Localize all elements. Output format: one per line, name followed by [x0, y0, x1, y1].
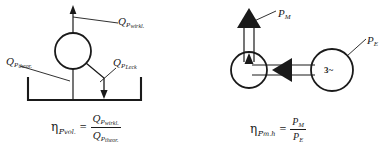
formula-mechanical-hydraulic-efficiency: ηPm.h = PM PE — [250, 116, 306, 143]
pressure-outlet-arrowhead-icon — [70, 5, 77, 14]
eta-symbol-mechanical: ηPm.h — [250, 122, 276, 138]
leakage-arrowhead-icon — [100, 90, 107, 99]
leader-line-electrical-power — [347, 39, 366, 56]
right-motor-pump-assembly — [231, 8, 366, 91]
equals-sign-mechanical: = — [276, 122, 291, 137]
output-power-arrowhead-icon — [237, 8, 261, 28]
motor-type-symbol: 3~ — [324, 65, 333, 75]
reservoir-tank — [28, 77, 141, 100]
fraction-volumetric: QPwirkl. QPtheor. — [91, 112, 121, 143]
shaft-power-arrowhead-icon — [272, 58, 292, 82]
eta-symbol-volumetric: ηPvol. — [51, 120, 76, 136]
label-theoretical-flow: QPtheor. — [6, 52, 32, 69]
formula-volumetric-efficiency: ηPvol. = QPwirkl. QPtheor. — [51, 112, 121, 143]
leader-line-mechanical-power — [252, 11, 276, 22]
label-leakage-flow: QPLeck — [113, 53, 137, 70]
pump-symbol — [55, 33, 91, 69]
leakage-line — [86, 63, 104, 94]
label-mechanical-power: PM — [278, 4, 291, 21]
leader-line-leakage-flow — [100, 68, 116, 82]
fraction-denominator-volumetric: QPtheor. — [91, 128, 121, 143]
fraction-denominator-mechanical: PE — [291, 130, 305, 143]
equals-sign-volumetric: = — [76, 120, 91, 135]
fraction-numerator-mechanical: PM — [290, 116, 306, 129]
leader-line-actual-flow — [73, 17, 118, 23]
fraction-numerator-volumetric: QPwirkl. — [91, 112, 121, 127]
label-electrical-power: PE — [367, 31, 378, 48]
efficiency-figure: QPwirkl. QPtheor. QPLeck PM PE 3~ ηPvol.… — [0, 0, 387, 150]
label-actual-flow: QPwirkl. — [118, 12, 144, 29]
fraction-mechanical: PM PE — [290, 116, 306, 143]
